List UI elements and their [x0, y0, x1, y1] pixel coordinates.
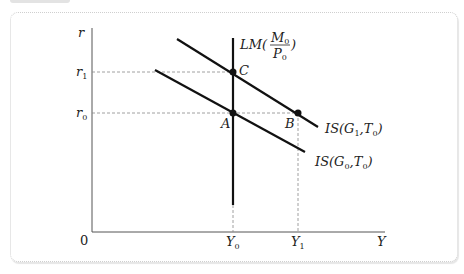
r0-label: r0 [76, 105, 87, 122]
lm-label: LM( M0 P0 ) [239, 30, 296, 62]
is-g1-label: IS(G1,T0) [324, 121, 383, 138]
point-b [295, 110, 302, 117]
is-lm-diagram: r Y 0 r1 r0 Y0 Y1 C A B LM( M0 P0 ) IS(G… [0, 0, 464, 274]
origin-label: 0 [80, 233, 88, 248]
point-a-label: A [220, 116, 230, 131]
y-axis-label: r [78, 25, 85, 40]
r1-label: r1 [76, 64, 87, 81]
svg-text:LM(: LM( [239, 37, 268, 52]
x-axis-label: Y [377, 234, 387, 249]
point-b-label: B [284, 116, 295, 131]
is-g0-label: IS(G0,T0) [314, 154, 373, 171]
svg-text:M0: M0 [270, 30, 289, 46]
y1-label: Y1 [291, 234, 305, 251]
svg-text:P0: P0 [272, 46, 287, 62]
is-g0-curve [155, 70, 305, 152]
point-c-label: C [239, 63, 249, 78]
point-c [230, 69, 237, 76]
y0-label: Y0 [226, 234, 240, 251]
svg-text:): ) [290, 37, 296, 52]
point-a [230, 110, 237, 117]
